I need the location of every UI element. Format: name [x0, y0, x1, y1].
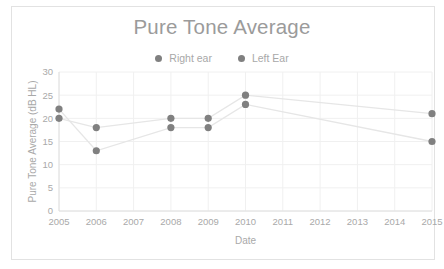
svg-text:2007: 2007: [123, 216, 144, 227]
svg-text:2013: 2013: [347, 216, 368, 227]
svg-text:2010: 2010: [235, 216, 256, 227]
svg-text:2012: 2012: [310, 216, 331, 227]
svg-text:2006: 2006: [86, 216, 107, 227]
chart-container: Pure Tone Average Right ear Left Ear 051…: [0, 0, 444, 269]
svg-text:10: 10: [42, 159, 53, 170]
svg-text:5: 5: [48, 182, 53, 193]
svg-text:0: 0: [48, 205, 53, 216]
y-axis-title: Pure Tone Average (dB HL): [27, 81, 38, 203]
svg-text:15: 15: [42, 136, 53, 147]
svg-text:2009: 2009: [198, 216, 219, 227]
x-axis-tick-labels: 2005200620072008200920102011201220132014…: [48, 216, 442, 227]
svg-text:20: 20: [42, 113, 53, 124]
y-axis-tick-labels: 051015202530: [42, 66, 53, 216]
svg-text:2015: 2015: [421, 216, 442, 227]
plot-area: 051015202530 200520062007200820092010201…: [0, 0, 444, 269]
svg-text:2008: 2008: [160, 216, 181, 227]
svg-text:2011: 2011: [273, 216, 293, 227]
x-axis-title: Date: [235, 235, 257, 246]
svg-text:30: 30: [42, 66, 53, 77]
svg-text:2005: 2005: [48, 216, 69, 227]
svg-text:2014: 2014: [384, 216, 405, 227]
svg-text:25: 25: [42, 90, 53, 101]
